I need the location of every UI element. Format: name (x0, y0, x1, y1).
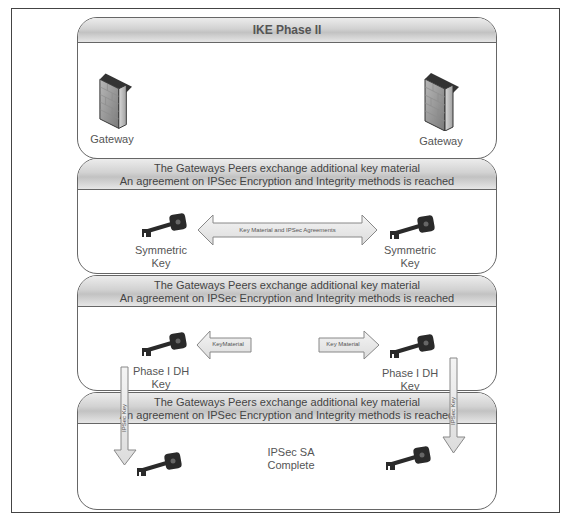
firewall-icon (423, 73, 459, 131)
panel-ike-phase-2: IKE Phase II Gateway Gateway (77, 17, 497, 159)
firewall-icon (98, 73, 132, 129)
panel-header: The Gateways Peers exchange additional k… (78, 393, 496, 424)
right-key-label: Phase I DH Key (375, 367, 445, 391)
panel-ipsec-sa-complete: The Gateways Peers exchange additional k… (77, 392, 497, 510)
right-arrow-label: Key Material (320, 340, 366, 348)
right-key-label: Symmetric Key (375, 244, 445, 270)
panel-header: The Gateways Peers exchange additional k… (78, 159, 496, 190)
panel-key-exchange: The Gateways Peers exchange additional k… (77, 158, 497, 274)
left-arrow-label: KeyMaterial (206, 340, 250, 348)
diagram-title: IKE Phase II (78, 18, 496, 43)
key-icon (140, 212, 188, 238)
left-gateway-label: Gateway (82, 133, 142, 146)
status-label: IPSec SA Complete (251, 446, 331, 472)
key-icon (388, 214, 436, 240)
right-down-arrow-label: IPSec Key (450, 397, 456, 425)
key-icon (135, 451, 183, 477)
panel-header: The Gateways Peers exchange additional k… (78, 276, 496, 307)
key-icon (384, 445, 432, 471)
right-gateway-label: Gateway (411, 135, 471, 148)
panel-dh-key-material: The Gateways Peers exchange additional k… (77, 275, 497, 391)
key-icon (388, 333, 436, 359)
key-icon (140, 331, 188, 357)
left-key-label: Symmetric Key (126, 244, 196, 270)
double-arrow-label: Key Material and IPSec Agreements (197, 226, 378, 234)
left-down-arrow-label: IPSec Key (121, 404, 127, 432)
